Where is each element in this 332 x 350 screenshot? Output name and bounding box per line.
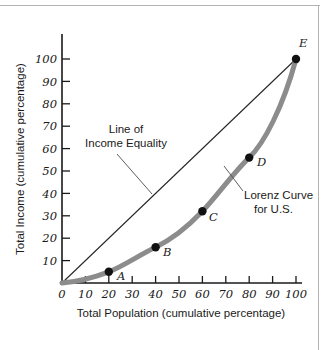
y-tick-labels: 10 20 30 40 50 60 70 80 90 100 <box>35 52 57 268</box>
y-tick-label-10: 10 <box>42 254 57 268</box>
x-tick-label-70: 70 <box>218 287 233 301</box>
y-axis-title: Total Income (cumulative percentage) <box>14 63 26 255</box>
equality-annotation-leader-line <box>117 154 152 194</box>
data-points-group <box>105 55 301 276</box>
y-tick-label-40: 40 <box>41 187 57 201</box>
data-point-labels: A B C D E <box>116 36 308 283</box>
x-tick-label-60: 60 <box>195 287 210 301</box>
x-axis-title: Total Population (cumulative percentage) <box>77 307 286 319</box>
y-tick-label-90: 90 <box>42 75 57 89</box>
x-tick-label-20: 20 <box>100 287 116 301</box>
y-tick-label-50: 50 <box>42 164 57 178</box>
data-point-b <box>151 243 159 251</box>
lorenz-annotation-line1: Lorenz Curve <box>244 189 313 201</box>
equality-annotation-group: Line of Income Equality <box>85 123 167 194</box>
lorenz-annotation-line2: for U.S. <box>254 203 293 215</box>
data-point-e <box>292 55 300 63</box>
x-tick-label-80: 80 <box>242 287 257 301</box>
y-tick-label-60: 60 <box>42 142 57 156</box>
lorenz-curve-figure: 10 20 30 40 50 60 70 80 90 100 0 <box>0 0 332 350</box>
income-equality-line <box>62 59 296 283</box>
x-tick-label-50: 50 <box>172 287 187 301</box>
x-tick-labels: 0 10 20 30 40 50 60 70 80 90 100 <box>58 287 307 301</box>
x-tick-label-10: 10 <box>78 287 93 301</box>
lorenz-chart: 10 20 30 40 50 60 70 80 90 100 0 <box>0 0 332 350</box>
data-point-label-b: B <box>162 245 171 259</box>
y-tick-label-80: 80 <box>42 97 57 111</box>
y-tick-label-20: 20 <box>41 231 57 245</box>
data-point-a <box>105 268 113 276</box>
equality-annotation-line2: Income Equality <box>85 137 167 149</box>
x-tick-label-40: 40 <box>147 287 163 301</box>
x-tick-label-90: 90 <box>265 287 280 301</box>
x-tick-label-0: 0 <box>58 287 65 301</box>
y-tick-label-100: 100 <box>35 52 57 66</box>
y-tick-label-30: 30 <box>42 209 57 223</box>
data-point-label-c: C <box>209 210 218 224</box>
y-tick-label-70: 70 <box>42 119 57 133</box>
x-tick-label-100: 100 <box>285 287 307 301</box>
data-point-label-a: A <box>116 269 125 283</box>
data-point-d <box>245 153 253 161</box>
data-point-c <box>198 207 206 215</box>
x-tick-label-30: 30 <box>125 287 140 301</box>
data-point-label-e: E <box>298 36 308 50</box>
data-point-label-d: D <box>256 155 266 169</box>
y-tick-marks <box>62 59 70 261</box>
equality-annotation-line1: Line of <box>109 123 144 135</box>
